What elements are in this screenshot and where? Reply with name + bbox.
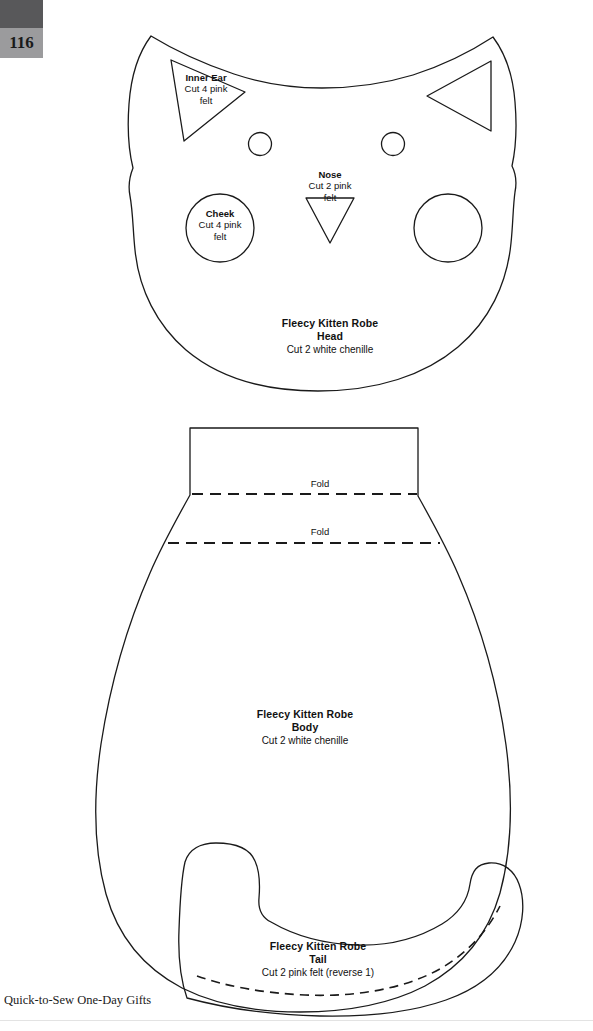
fold-label-lower: Fold — [290, 526, 350, 537]
body-piece-label: Fleecy Kitten Robe Body Cut 2 white chen… — [215, 708, 395, 748]
inner-ear-cut-2: felt — [168, 95, 244, 106]
head-piece-label: Fleecy Kitten Robe Head Cut 2 white chen… — [240, 317, 420, 357]
cheek-title: Cheek — [182, 208, 258, 219]
nose-cut-2: felt — [292, 192, 368, 203]
cheek-cut-1: Cut 4 pink — [182, 219, 258, 230]
head-part-name: Head — [240, 330, 420, 343]
body-cut-text: Cut 2 white chenille — [215, 735, 395, 748]
head-cut-text: Cut 2 white chenille — [240, 344, 420, 357]
left-eye-circle — [249, 133, 272, 156]
fold-label-upper: Fold — [290, 478, 350, 489]
book-footer: Quick-to-Sew One-Day Gifts — [4, 993, 151, 1008]
tail-cut-text: Cut 2 pink felt (reverse 1) — [218, 967, 418, 980]
body-title: Fleecy Kitten Robe — [215, 708, 395, 721]
cheek-label: Cheek Cut 4 pink felt — [182, 208, 258, 242]
tail-outline-path — [179, 843, 523, 1016]
cheek-cut-2: felt — [182, 231, 258, 242]
body-part-name: Body — [215, 721, 395, 734]
nose-title: Nose — [292, 169, 368, 180]
head-title: Fleecy Kitten Robe — [240, 317, 420, 330]
page-bottom-rule — [0, 1020, 593, 1021]
inner-ear-title: Inner Ear — [168, 72, 244, 83]
inner-ear-cut-1: Cut 4 pink — [168, 83, 244, 94]
right-cheek-circle — [414, 194, 482, 262]
tail-title: Fleecy Kitten Robe — [218, 940, 418, 953]
nose-cut-1: Cut 2 pink — [292, 180, 368, 191]
inner-ear-label: Inner Ear Cut 4 pink felt — [168, 72, 244, 106]
tail-part-name: Tail — [218, 953, 418, 966]
pattern-drawing — [0, 0, 593, 1031]
nose-label: Nose Cut 2 pink felt — [292, 169, 368, 203]
nose-triangle — [306, 198, 354, 243]
pattern-page: 116 Inner Ear Cut 4 pink — [0, 0, 593, 1031]
right-eye-circle — [382, 133, 405, 156]
right-ear-triangle — [427, 61, 491, 131]
tail-piece-label: Fleecy Kitten Robe Tail Cut 2 pink felt … — [218, 940, 418, 980]
